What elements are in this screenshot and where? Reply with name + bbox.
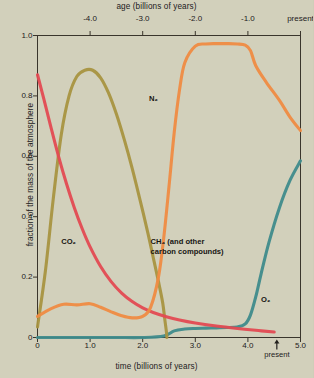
top-tick-label-2: -2.0 bbox=[169, 14, 221, 23]
bottom-tick-label-4: 4.0 bbox=[228, 341, 268, 350]
figure-atmosphere-composition: age (billions of years) time (billions o… bbox=[0, 0, 313, 378]
left-tick-label-0: 0 bbox=[0, 333, 33, 342]
bottom-tick-label-0: 0 bbox=[18, 341, 58, 350]
bottom-present-marker-label: present bbox=[252, 350, 302, 359]
left-tick-label-3: 0.6 bbox=[0, 151, 33, 160]
top-axis-title: age (billions of years) bbox=[0, 2, 313, 11]
left-tick-label-1: 0.2 bbox=[0, 272, 33, 281]
bottom-tick-label-3: 3.0 bbox=[175, 341, 215, 350]
n2-label: N₂ bbox=[149, 94, 158, 103]
chart-canvas bbox=[0, 0, 313, 378]
bottom-axis-title: time (billions of years) bbox=[0, 362, 313, 371]
y-axis-title: fraction of the mass of the atmosphere bbox=[26, 90, 35, 260]
bottom-tick-label-5: 5.0 bbox=[281, 341, 314, 350]
curve-ch4-and-other-carbon-compounds bbox=[38, 69, 167, 337]
present-marker-arrow bbox=[274, 340, 279, 350]
left-tick-label-2: 0.4 bbox=[0, 212, 33, 221]
bottom-tick-label-1: 1.0 bbox=[70, 341, 110, 350]
ch4-label: CH₄ (and other carbon compounds) bbox=[151, 237, 229, 256]
top-tick-label-4: present bbox=[275, 14, 314, 23]
top-tick-label-3: -1.0 bbox=[222, 14, 274, 23]
o2-label: O₂ bbox=[261, 295, 270, 304]
left-tick-label-4: 0.8 bbox=[0, 91, 33, 100]
left-tick-label-5: 1.0 bbox=[0, 31, 33, 40]
top-tick-label-1: -3.0 bbox=[117, 14, 169, 23]
top-tick-label-0: -4.0 bbox=[64, 14, 116, 23]
data-curves bbox=[38, 44, 301, 338]
bottom-tick-label-2: 2.0 bbox=[123, 341, 163, 350]
co2-label: CO₂ bbox=[61, 237, 76, 246]
